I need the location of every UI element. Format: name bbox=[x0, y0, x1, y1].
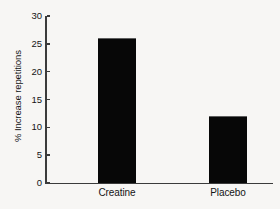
y-tick-label: 0 bbox=[2, 178, 42, 188]
y-tick-label: 25 bbox=[2, 39, 42, 49]
y-tick-label: 10 bbox=[2, 122, 42, 132]
bar-placebo bbox=[209, 116, 247, 183]
plot-area bbox=[45, 16, 273, 183]
y-tick-label: 20 bbox=[2, 67, 42, 77]
y-tick-label: 30 bbox=[2, 11, 42, 21]
y-tick-label: 15 bbox=[2, 95, 42, 105]
bar-chart-figure: % Increase repetitions 051015202530 Crea… bbox=[0, 0, 280, 209]
x-axis-label: Placebo bbox=[188, 187, 268, 199]
x-axis-label: Creatine bbox=[77, 187, 157, 199]
y-tick-label: 5 bbox=[2, 150, 42, 160]
bar-creatine bbox=[98, 38, 136, 183]
